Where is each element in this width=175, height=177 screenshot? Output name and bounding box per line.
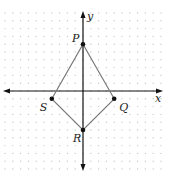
y-axis-bottom-arrow-icon <box>81 164 86 171</box>
point-label-q: Q <box>119 101 128 114</box>
vertices: PQRS <box>40 32 128 145</box>
point-label-s: S <box>40 101 48 114</box>
x-axis-label: x <box>155 92 162 105</box>
point-p <box>81 42 86 47</box>
x-axis-left-arrow-icon <box>3 89 10 94</box>
point-s <box>50 97 55 102</box>
y-axis-top-arrow-icon <box>81 11 86 18</box>
point-label-p: P <box>71 32 80 45</box>
point-r <box>81 128 86 133</box>
y-axis-label: y <box>86 10 94 23</box>
point-q <box>112 97 117 102</box>
point-label-r: R <box>72 132 81 145</box>
coordinate-plane-figure: x y PQRS <box>0 0 175 177</box>
